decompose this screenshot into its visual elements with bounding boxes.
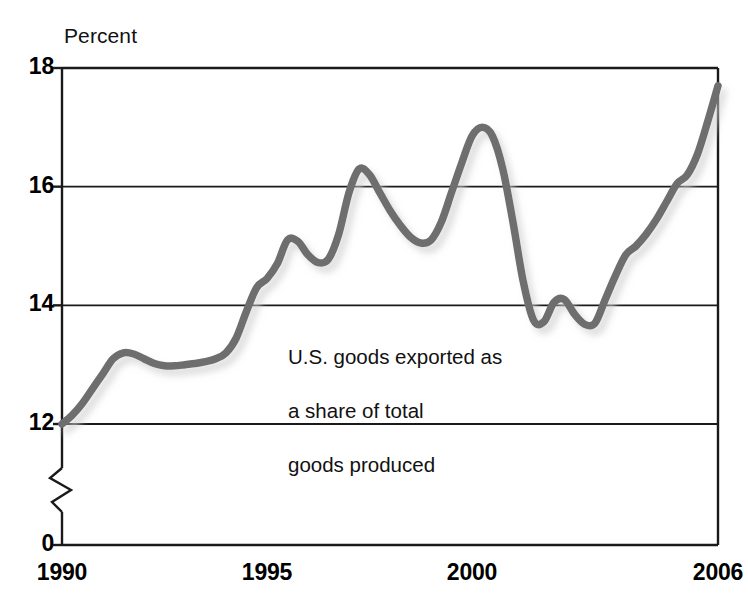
data-line-series-1 (62, 86, 718, 424)
axis-lines (50, 68, 718, 545)
gridlines (62, 187, 718, 424)
